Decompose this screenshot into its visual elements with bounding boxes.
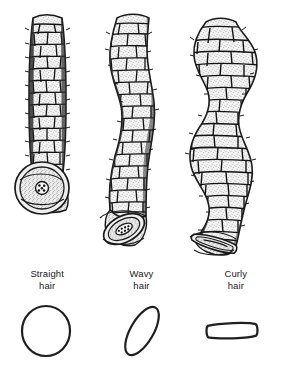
label-straight-line2: hair — [0, 280, 94, 292]
cross-section-outlines — [22, 302, 258, 360]
label-curly-line1: Curly — [189, 268, 283, 280]
label-straight-hair: Straight hair — [0, 268, 94, 291]
label-curly-hair: Curly hair — [189, 268, 283, 291]
hair-types-figure — [0, 0, 283, 373]
label-curly-line2: hair — [189, 280, 283, 292]
hair-type-labels: Straight hair Wavy hair Curly hair — [0, 268, 283, 291]
wavy-cross-section-outline — [119, 302, 166, 360]
straight-hair-shaft — [15, 14, 70, 214]
label-straight-line1: Straight — [0, 268, 94, 280]
label-wavy-line2: hair — [94, 280, 188, 292]
straight-cross-section-outline — [22, 306, 70, 356]
wavy-hair-shaft — [98, 14, 161, 251]
curly-cross-section-outline — [206, 322, 258, 339]
curly-hair-shaft — [180, 16, 263, 256]
label-wavy-hair: Wavy hair — [94, 268, 188, 291]
straight-cut-end-cross-section — [15, 162, 69, 214]
label-wavy-line1: Wavy — [94, 268, 188, 280]
